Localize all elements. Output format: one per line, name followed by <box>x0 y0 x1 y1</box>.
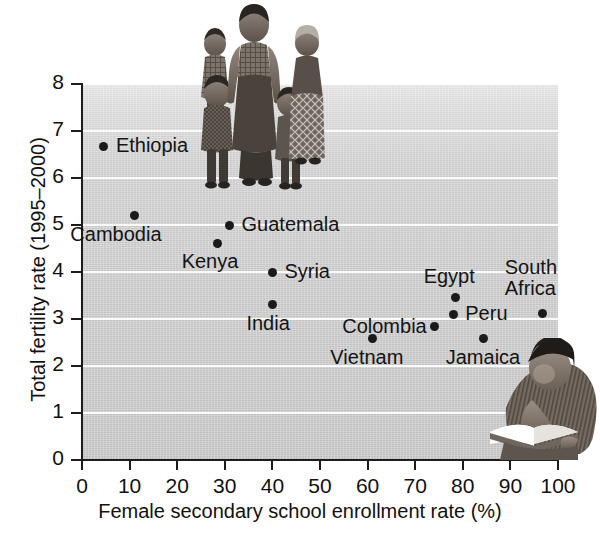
data-point-colombia[interactable] <box>430 322 439 331</box>
x-tick-10 <box>129 460 131 470</box>
x-tick-40 <box>271 460 273 470</box>
data-point-peru[interactable] <box>449 310 458 319</box>
x-tick-0 <box>81 460 83 470</box>
point-label-guatemala: Guatemala <box>242 214 340 235</box>
x-tick-label-70: 70 <box>404 474 427 498</box>
point-label-colombia: Colombia <box>342 316 426 337</box>
x-tick-label-50: 50 <box>308 474 331 498</box>
x-tick-90 <box>509 460 511 470</box>
data-point-egypt[interactable] <box>451 293 460 302</box>
gridline-y-1 <box>82 412 558 414</box>
point-label-cambodia: Cambodia <box>70 224 161 245</box>
scatter-chart-figure: 012345678 0102030405060708090100 Total f… <box>0 0 600 534</box>
x-tick-label-40: 40 <box>261 474 284 498</box>
y-tick-4 <box>71 271 82 273</box>
x-tick-100 <box>557 460 559 470</box>
x-tick-label-80: 80 <box>451 474 474 498</box>
data-point-jamaica[interactable] <box>479 334 488 343</box>
x-tick-20 <box>176 460 178 470</box>
y-tick-6 <box>71 177 82 179</box>
x-tick-30 <box>224 460 226 470</box>
data-point-syria[interactable] <box>268 268 277 277</box>
point-label-syria: Syria <box>284 261 330 282</box>
y-tick-8 <box>71 83 82 85</box>
point-label-south-africa: SouthAfrica <box>505 257 557 299</box>
x-tick-label-100: 100 <box>540 474 575 498</box>
point-label-peru: Peru <box>465 303 507 324</box>
photo-family-mother-with-children <box>183 0 325 190</box>
x-tick-50 <box>319 460 321 470</box>
point-label-ethiopia: Ethiopia <box>116 135 188 156</box>
x-tick-80 <box>462 460 464 470</box>
x-tick-60 <box>367 460 369 470</box>
y-tick-7 <box>71 130 82 132</box>
x-tick-label-20: 20 <box>166 474 189 498</box>
y-tick-2 <box>71 365 82 367</box>
point-label-egypt: Egypt <box>424 266 475 287</box>
point-label-india: India <box>246 313 289 334</box>
y-axis-title: Total fertility rate (1995–2000) <box>27 70 50 470</box>
data-point-guatemala[interactable] <box>225 221 234 230</box>
photo-girl-reading-book <box>488 338 600 460</box>
data-point-cambodia[interactable] <box>130 211 139 220</box>
x-tick-label-10: 10 <box>118 474 141 498</box>
x-axis-title: Female secondary school enrollment rate … <box>0 500 600 523</box>
y-tick-1 <box>71 412 82 414</box>
x-tick-label-30: 30 <box>213 474 236 498</box>
x-tick-label-90: 90 <box>499 474 522 498</box>
point-label-vietnam: Vietnam <box>330 347 403 368</box>
x-tick-70 <box>414 460 416 470</box>
data-point-south-africa[interactable] <box>538 309 547 318</box>
data-point-india[interactable] <box>268 300 277 309</box>
x-tick-label-60: 60 <box>356 474 379 498</box>
data-point-kenya[interactable] <box>213 239 222 248</box>
y-tick-3 <box>71 318 82 320</box>
x-tick-label-0: 0 <box>76 474 88 498</box>
point-label-kenya: Kenya <box>182 251 239 272</box>
data-point-ethiopia[interactable] <box>99 142 108 151</box>
